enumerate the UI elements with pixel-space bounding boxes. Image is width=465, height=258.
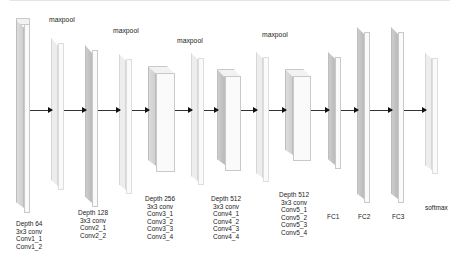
maxpool-label: maxpool xyxy=(49,16,75,23)
arrow xyxy=(370,110,392,111)
pool2-block xyxy=(119,54,132,194)
softmax-block xyxy=(425,53,438,174)
arrow xyxy=(341,110,358,111)
conv5-label: Depth 512 3x3 conv Conv5_1 Conv5_2 Conv5… xyxy=(279,191,309,237)
conv3-label: Depth 256 3x3 conv Conv3_1 Conv3_2 Conv3… xyxy=(145,195,175,241)
arrow xyxy=(241,110,257,111)
arrow xyxy=(64,110,86,111)
maxpool-label: maxpool xyxy=(113,27,139,34)
conv1-label: Depth 64 3x3 conv Conv1_1 Conv1_2 xyxy=(16,220,42,250)
fc3-block xyxy=(391,27,404,203)
top-border xyxy=(10,0,450,1)
arrow xyxy=(311,110,329,111)
softmax-label: softmax xyxy=(425,204,448,212)
conv4-block xyxy=(217,69,241,171)
pool1-block xyxy=(51,38,64,190)
fc1-label: FC1 xyxy=(327,213,339,221)
arrow xyxy=(30,110,52,111)
fc2-label: FC2 xyxy=(358,213,370,221)
conv5-block xyxy=(285,69,311,161)
fc2-block xyxy=(357,27,370,203)
arrow xyxy=(269,110,286,111)
arrow xyxy=(204,110,218,111)
fc3-label: FC3 xyxy=(392,213,404,221)
conv2-block xyxy=(85,45,98,207)
arrow xyxy=(175,110,192,111)
conv3-block xyxy=(148,66,175,172)
maxpool-label: maxpool xyxy=(262,31,288,38)
pool4-block xyxy=(256,52,269,182)
conv2-label: Depth 128 3x3 conv Conv2_1 Conv2_2 xyxy=(78,209,108,239)
arrow xyxy=(132,110,149,111)
pool3-block xyxy=(191,53,204,185)
arrow xyxy=(98,110,120,111)
maxpool-label: maxpool xyxy=(177,37,203,44)
arrow xyxy=(404,110,426,111)
conv4-label: Depth 512 3x3 conv Conv4_1 Conv4_2 Conv4… xyxy=(211,195,241,241)
conv1-block xyxy=(16,18,30,213)
